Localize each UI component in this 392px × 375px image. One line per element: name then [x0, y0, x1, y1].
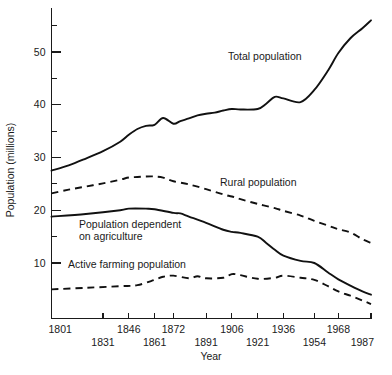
- x-tick-label: 1891: [194, 336, 218, 348]
- population-line-chart: 1020304050 18011831184618611872189119061…: [0, 0, 392, 375]
- x-tick-label: 1801: [49, 323, 73, 335]
- x-tick-label: 1831: [91, 336, 115, 348]
- series-label: Population dependent: [79, 218, 181, 230]
- x-tick-label: 1936: [272, 323, 296, 335]
- x-tick-label: 1921: [246, 336, 270, 348]
- y-tick-label: 40: [34, 98, 46, 110]
- y-tick-label: 20: [34, 204, 46, 216]
- chart-container: 1020304050 18011831184618611872189119061…: [0, 0, 392, 375]
- x-tick-label: 1846: [117, 323, 141, 335]
- x-tick-label: 1987: [351, 336, 375, 348]
- x-tick-label: 1968: [327, 323, 351, 335]
- x-tick-label: 1861: [143, 336, 167, 348]
- series-label: Active farming population: [68, 258, 186, 270]
- y-axis-title: Population (millions): [4, 123, 16, 218]
- y-tick-label: 10: [34, 257, 46, 269]
- y-tick-label: 50: [34, 46, 46, 58]
- series-label: Total population: [228, 50, 302, 62]
- y-tick-label: 30: [34, 151, 46, 163]
- x-tick-label: 1954: [303, 336, 327, 348]
- series-label: on agriculture: [79, 230, 143, 242]
- x-axis-title: Year: [200, 350, 222, 362]
- x-tick-label: 1872: [162, 323, 186, 335]
- x-tick-label: 1906: [220, 323, 244, 335]
- series-label: Rural population: [220, 176, 297, 188]
